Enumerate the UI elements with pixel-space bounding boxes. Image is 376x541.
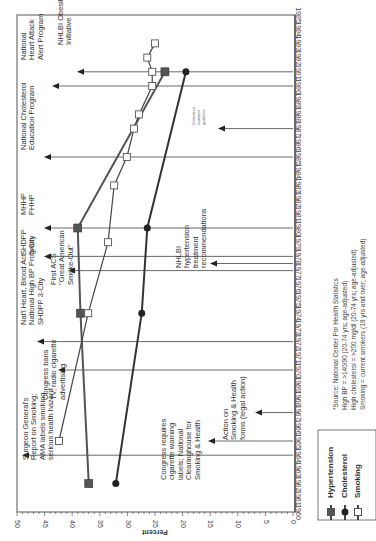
year-tick-label: 1991 <box>295 64 302 80</box>
year-tick-label: 1982 <box>295 192 302 208</box>
y-axis-title: Percent <box>141 529 167 536</box>
cholesterol-series <box>112 68 189 487</box>
year-tick-label: 1976 <box>295 277 302 293</box>
annotation-text: Alert Program <box>36 14 45 60</box>
year-tick-label: 1977 <box>295 263 302 279</box>
source-note-line: High cholesterol = >200 mg/dl (20-74 yrs… <box>350 249 358 410</box>
year-tick-label: 1969 <box>295 376 302 392</box>
year-tick-label: 1985 <box>295 149 302 165</box>
annotation-text: recommendations <box>199 208 208 268</box>
year-tick-label: 1984 <box>295 163 302 179</box>
percent-tick-label: 0 <box>290 520 297 524</box>
year-tick-label: 1993 <box>295 36 302 52</box>
year-tick-label: 1995 <box>295 7 302 23</box>
hypertension-series <box>74 68 169 488</box>
percent-tick-label: 10 <box>235 520 242 528</box>
percent-tick-label: 25 <box>152 520 159 528</box>
percent-tick-label: 5 <box>263 520 270 524</box>
year-tick-label: 1979 <box>295 234 302 250</box>
year-tick-label: 1973 <box>295 320 302 336</box>
year-tick-label: 1971 <box>295 348 302 364</box>
annotation-text: SHDPP 3-City <box>36 277 45 325</box>
year-tick-label: 1978 <box>295 249 302 265</box>
year-tick-label: 1968 <box>295 391 302 407</box>
source-note: *Source: National Center For Health Stat… <box>332 239 367 410</box>
annotation-text: Education Program <box>27 86 36 150</box>
annotation-text: guidelines <box>202 109 206 125</box>
year-tick-label: 1980 <box>295 220 302 236</box>
percent-tick-label: 15 <box>207 520 214 528</box>
percent-axis: 05101520253035404550 <box>14 512 297 528</box>
percent-tick-label: 40 <box>69 520 76 528</box>
year-tick-label: 1986 <box>295 135 302 151</box>
year-tick-label: 1987 <box>295 121 302 137</box>
year-tick-label: 1961 <box>295 490 302 506</box>
percent-tick-label: 50 <box>14 520 21 528</box>
annotation-text: Initiative <box>64 17 73 45</box>
year-tick-label: 1989 <box>295 92 302 108</box>
year-tick-label: 1962 <box>295 476 302 492</box>
year-tick-label: 1960 <box>295 504 302 520</box>
year-tick-label: 1994 <box>295 21 302 37</box>
smoking-series <box>55 40 158 445</box>
year-tick-label: 1974 <box>295 305 302 321</box>
annotation-text: treatment <box>197 110 201 125</box>
legend-label: Hypertension <box>326 447 335 498</box>
legend-label: Cholesterol <box>340 454 349 498</box>
source-note-line: *Source: National Center For Health Stat… <box>332 277 339 410</box>
year-tick-label: 1963 <box>295 462 302 478</box>
year-tick-label: 1966 <box>295 419 302 435</box>
year-tick-label: 1972 <box>295 334 302 350</box>
percent-tick-label: 30 <box>125 520 132 528</box>
year-tick-label: 1992 <box>295 50 302 66</box>
percent-tick-label: 45 <box>42 520 49 528</box>
year-tick-label: 1970 <box>295 362 302 378</box>
annotation-text: advertising <box>58 364 67 400</box>
source-note-line: High BP = >140/90 (20-74 yrs; age-adjust… <box>341 281 349 410</box>
annotation-text: Cholesterol <box>192 107 196 125</box>
source-note-line: Smoking = current smokers (18 yrs and ov… <box>359 239 367 410</box>
year-tick-label: 1965 <box>295 433 302 449</box>
year-tick-label: 1983 <box>295 178 302 194</box>
year-tick-label: 1964 <box>295 447 302 463</box>
year-tick-label: 1975 <box>295 291 302 307</box>
annotation-text: forms (legal action) <box>238 376 247 440</box>
year-axis: 1960196119621963196419651966196719681969… <box>295 7 302 520</box>
annotation-text: PHHP <box>27 194 36 215</box>
annotation-text: Smoking & Health <box>193 420 202 480</box>
risk-factor-trend-chart: 1960196119621963196419651966196719681969… <box>0 0 376 541</box>
legend: HypertensionCholesterolSmoking <box>318 430 376 520</box>
year-tick-label: 1967 <box>295 405 302 421</box>
percent-tick-label: 20 <box>180 520 187 528</box>
year-tick-label: 1988 <box>295 107 302 123</box>
data-series <box>55 40 189 488</box>
annotation-text: Smoke-Out" <box>66 244 75 285</box>
annotation-text: 5-City <box>27 235 36 255</box>
year-tick-label: 1990 <box>295 78 302 94</box>
percent-tick-label: 35 <box>97 520 104 528</box>
year-tick-label: 1981 <box>295 206 302 222</box>
legend-label: Smoking <box>353 464 362 498</box>
